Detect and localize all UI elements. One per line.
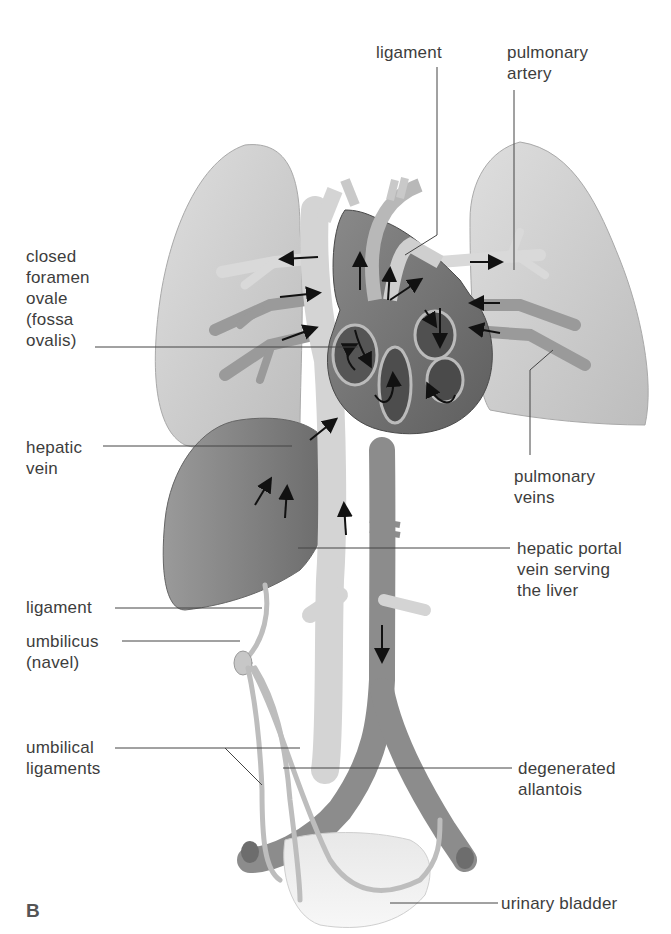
liver bbox=[163, 418, 332, 610]
label-ligament-top: ligament bbox=[376, 42, 442, 63]
label-pulmonary-artery: pulmonary artery bbox=[507, 42, 588, 84]
label-umbilicus: umbilicus (navel) bbox=[26, 631, 99, 673]
panel-letter: B bbox=[26, 900, 40, 922]
label-hepatic-vein: hepatic vein bbox=[26, 437, 82, 479]
left-atrium bbox=[415, 311, 455, 359]
right-ventricle bbox=[379, 347, 411, 423]
label-ligament-left: ligament bbox=[26, 597, 92, 618]
label-umbilical-ligaments: umbilical ligaments bbox=[26, 737, 101, 779]
label-pulmonary-veins: pulmonary veins bbox=[514, 466, 595, 508]
heart bbox=[327, 178, 492, 434]
leader-ligament-top bbox=[405, 67, 437, 255]
right-atrium bbox=[333, 325, 377, 385]
right-lung bbox=[470, 142, 648, 425]
label-urinary-bladder: urinary bladder bbox=[501, 893, 617, 914]
label-closed-foramen-ovale: closed foramen ovale (fossa ovalis) bbox=[26, 246, 90, 351]
urinary-bladder bbox=[284, 833, 430, 928]
leader-umbilical-ligaments-branch bbox=[225, 748, 262, 785]
label-hepatic-portal-vein: hepatic portal vein serving the liver bbox=[517, 538, 622, 601]
label-degenerated-allantois: degenerated allantois bbox=[518, 758, 616, 800]
left-ventricle bbox=[427, 358, 463, 402]
